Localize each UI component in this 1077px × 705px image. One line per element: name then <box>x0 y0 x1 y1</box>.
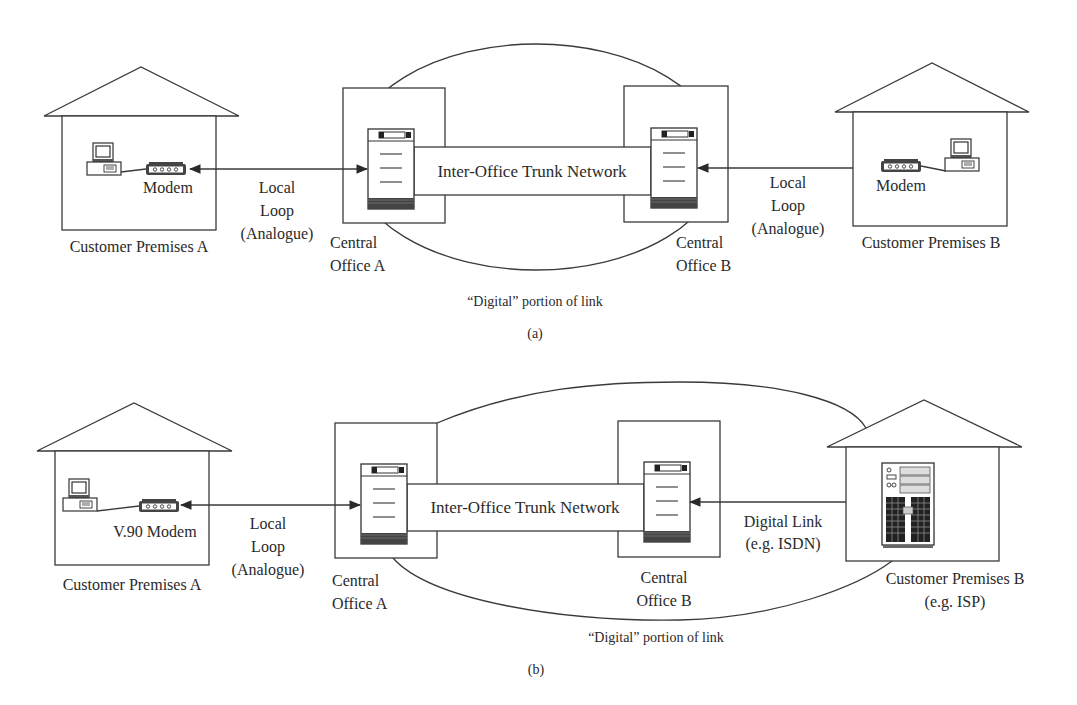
switch-icon <box>368 129 414 209</box>
central-office-a-label: Central <box>332 572 380 589</box>
customer-premises-b-label: Customer Premises B <box>886 570 1025 587</box>
digital-link-label: Digital Link <box>744 513 823 531</box>
trunk-network-label: Inter-Office Trunk Network <box>437 162 627 181</box>
digital-link-label: (e.g. ISDN) <box>745 535 820 553</box>
customer-premises-b-sublabel: (e.g. ISP) <box>925 593 986 611</box>
switch-icon <box>361 464 407 544</box>
modem-icon <box>146 162 186 175</box>
digital-portion-label: “Digital” portion of link <box>588 630 724 645</box>
central-office-b-label: Office B <box>676 257 731 274</box>
house-icon <box>44 67 239 230</box>
central-office-a-label: Central <box>330 234 378 251</box>
device-label: Modem <box>143 179 193 196</box>
panel-a: Modem Customer Premises A Inter-Office T… <box>44 44 1029 342</box>
panel-b: V.90 Modem Customer Premises A Inter-Off… <box>37 382 1024 678</box>
central-office-a-label: Office A <box>330 257 386 274</box>
local-loop-b-label: Local <box>770 174 807 191</box>
local-loop-b-label: (Analogue) <box>752 220 825 238</box>
central-office-b-label: Central <box>640 569 688 586</box>
local-loop-a-label: Local <box>250 515 287 532</box>
modem-icon <box>139 499 179 512</box>
digital-portion-label: “Digital” portion of link <box>467 294 603 309</box>
local-loop-a-label: Local <box>259 179 296 196</box>
central-office-a-label: Office A <box>332 595 388 612</box>
caption-a: (a) <box>527 326 543 342</box>
caption-b: (b) <box>528 662 545 678</box>
local-loop-a-label: (Analogue) <box>232 561 305 579</box>
switch-icon <box>651 128 697 208</box>
local-loop-a-label: Loop <box>260 202 294 220</box>
customer-premises-b-label: Customer Premises B <box>862 234 1001 251</box>
local-loop-a-label: (Analogue) <box>241 225 314 243</box>
device-label: Modem <box>876 177 926 194</box>
device-label: V.90 Modem <box>113 523 197 540</box>
trunk-network-label: Inter-Office Trunk Network <box>430 498 620 517</box>
house-icon <box>37 403 232 565</box>
modem-icon <box>881 159 921 172</box>
house-icon <box>835 63 1029 226</box>
switch-icon <box>644 462 690 542</box>
central-office-b-label: Office B <box>636 592 691 609</box>
local-loop-a-label: Loop <box>251 538 285 556</box>
network-diagram: Modem Customer Premises A Inter-Office T… <box>0 0 1077 705</box>
server-icon <box>882 463 934 548</box>
local-loop-b-label: Loop <box>771 197 805 215</box>
customer-premises-a-label: Customer Premises A <box>70 238 209 255</box>
customer-premises-a-label: Customer Premises A <box>63 576 202 593</box>
central-office-b-label: Central <box>676 234 724 251</box>
